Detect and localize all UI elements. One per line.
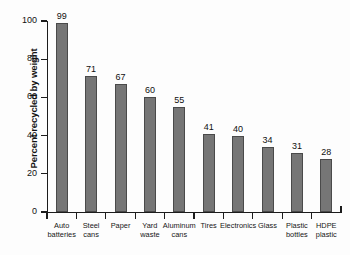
y-tick-label: 40 — [0, 131, 37, 140]
x-category-label-line: cans — [69, 230, 113, 239]
y-tick-label: 100 — [0, 16, 37, 25]
x-tick-mark — [252, 213, 253, 219]
y-tick-label: 0 — [0, 207, 37, 216]
x-tick-mark — [46, 213, 47, 219]
x-tick-mark — [223, 213, 224, 219]
x-tick-mark — [135, 213, 136, 219]
y-tick-label: 20 — [0, 169, 37, 178]
x-tick-mark — [311, 213, 312, 219]
y-tick-mark — [41, 59, 47, 60]
bar — [85, 76, 97, 212]
y-tick-mark — [41, 173, 47, 174]
bar — [232, 136, 244, 212]
y-tick-label: 60 — [0, 92, 37, 101]
y-tick-mark — [41, 135, 47, 136]
x-category-label-line: HDPE — [304, 221, 348, 230]
x-tick-mark — [282, 213, 283, 219]
bar — [320, 159, 332, 212]
bar-value-label: 99 — [45, 12, 79, 21]
bar-value-label: 67 — [104, 73, 138, 82]
y-axis-line — [47, 21, 48, 213]
x-category-label-line: cans — [157, 230, 201, 239]
bar-value-label: 60 — [133, 86, 167, 95]
x-tick-mark — [164, 213, 165, 219]
x-category-label: HDPEplastic — [304, 221, 348, 239]
bar — [262, 147, 274, 212]
y-tick-label: 80 — [0, 54, 37, 63]
y-tick-mark — [41, 97, 47, 98]
x-tick-mark — [193, 213, 194, 219]
bar-value-label: 55 — [162, 96, 196, 105]
x-axis-end-cap — [340, 206, 341, 213]
x-category-label-line: plastic — [304, 230, 348, 239]
x-tick-mark — [76, 213, 77, 219]
bar — [144, 97, 156, 212]
bar — [173, 107, 185, 212]
bar-value-label: 40 — [221, 125, 255, 134]
bar — [56, 23, 68, 212]
recycling-bar-chart: Percent recycled by weight 020406080100 … — [0, 0, 350, 255]
bar — [115, 84, 127, 212]
x-tick-mark — [105, 213, 106, 219]
bar — [291, 153, 303, 212]
bar — [203, 134, 215, 212]
bar-value-label: 28 — [309, 148, 343, 157]
